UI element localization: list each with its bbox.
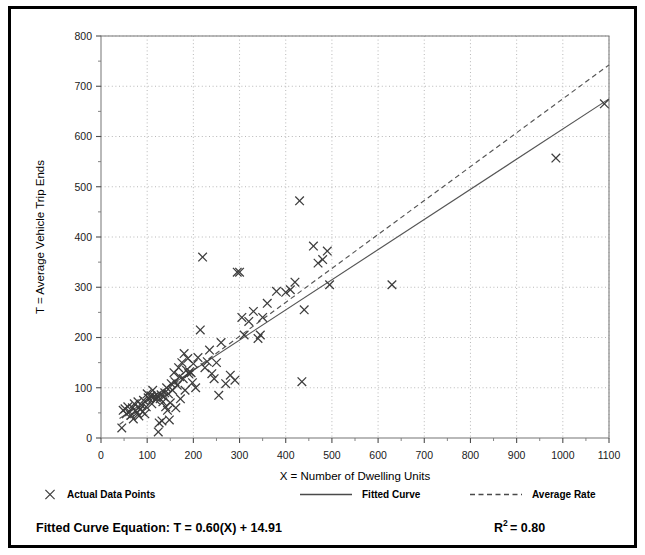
data-point-marker — [178, 358, 187, 367]
data-point-marker — [323, 247, 332, 256]
data-point-marker — [309, 242, 318, 251]
y-axis-tick-label: 700 — [74, 80, 92, 92]
data-point-marker — [194, 353, 203, 362]
y-axis-tick-label: 600 — [74, 130, 92, 142]
x-axis-tick-label: 800 — [462, 449, 480, 461]
data-point-marker — [176, 395, 185, 404]
legend-layer: Actual Data PointsFitted CurveAverage Ra… — [45, 489, 596, 500]
data-point-marker — [154, 428, 163, 437]
x-axis-title: X = Number of Dwelling Units — [280, 470, 431, 482]
y-axis-tick-label: 0 — [86, 432, 92, 444]
data-point-marker — [198, 253, 207, 262]
data-point-marker — [286, 285, 295, 294]
legend-label-actual-data-points: Actual Data Points — [67, 489, 156, 500]
footer-layer: Fitted Curve Equation: T = 0.60(X) + 14.… — [36, 518, 545, 535]
y-axis-tick-label: 500 — [74, 181, 92, 193]
data-point-marker — [263, 299, 272, 308]
x-axis-tick-label: 1000 — [551, 449, 575, 461]
data-point-marker — [174, 363, 183, 372]
data-point-marker — [214, 391, 223, 400]
data-point-marker — [172, 404, 181, 413]
axis-title-layer: X = Number of Dwelling UnitsT = Average … — [34, 160, 431, 482]
fitted-curve-equation: Fitted Curve Equation: T = 0.60(X) + 14.… — [36, 521, 282, 535]
data-point-marker — [217, 338, 226, 347]
x-axis-tick-label: 700 — [416, 449, 434, 461]
data-point-marker — [205, 346, 214, 355]
data-point-layer — [117, 100, 608, 437]
data-point-marker — [318, 255, 327, 264]
legend-item-actual-data-points: Actual Data Points — [45, 489, 155, 500]
data-point-marker — [196, 326, 205, 335]
x-axis-tick-label: 400 — [277, 449, 295, 461]
y-axis-tick-label: 400 — [74, 231, 92, 243]
data-point-marker — [181, 386, 190, 395]
data-point-marker — [188, 378, 197, 387]
y-axis-tick-label: 300 — [74, 281, 92, 293]
data-point-marker — [272, 287, 281, 296]
grid-layer — [101, 36, 609, 438]
x-axis-tick-label: 500 — [323, 449, 341, 461]
y-axis-tick-label: 100 — [74, 382, 92, 394]
x-axis-tick-label: 900 — [508, 449, 526, 461]
data-point-marker — [295, 197, 304, 206]
x-axis-tick-label: 0 — [98, 449, 104, 461]
data-point-marker — [300, 306, 309, 315]
data-point-marker — [180, 349, 189, 358]
r-squared-symbol: R — [494, 521, 503, 535]
data-point-marker — [165, 416, 174, 425]
data-point-marker — [221, 379, 230, 388]
r-squared-value: R2= 0.80 — [494, 518, 545, 535]
data-point-marker — [117, 424, 126, 433]
data-point-marker — [388, 280, 397, 289]
legend-item-fitted-curve: Fitted Curve — [300, 489, 421, 500]
x-axis-tick-label: 100 — [138, 449, 156, 461]
y-axis-tick-label: 800 — [74, 30, 92, 42]
data-point-marker — [231, 376, 240, 385]
r-squared-exponent: 2 — [503, 518, 508, 528]
data-point-marker — [298, 377, 307, 386]
legend-item-average-rate: Average Rate — [470, 489, 596, 500]
data-point-marker — [314, 259, 323, 268]
x-axis-tick-label: 300 — [231, 449, 249, 461]
x-axis-tick-label: 200 — [185, 449, 203, 461]
data-point-marker — [291, 278, 300, 287]
data-point-marker — [249, 307, 258, 316]
y-axis-tick-label: 200 — [74, 331, 92, 343]
legend-label-average-rate: Average Rate — [532, 489, 596, 500]
x-axis-tick-label: 600 — [369, 449, 387, 461]
scatter-plot-svg: 0100200300400500600700800010020030040050… — [0, 0, 645, 555]
data-point-marker — [212, 358, 221, 367]
chart-canvas: 0100200300400500600700800010020030040050… — [0, 0, 645, 555]
r-squared-number: = 0.80 — [510, 521, 545, 535]
y-axis-title: T = Average Vehicle Trip Ends — [34, 160, 46, 314]
data-point-marker — [163, 406, 172, 415]
figure-container: 0100200300400500600700800010020030040050… — [0, 0, 645, 555]
data-point-marker — [552, 154, 561, 163]
data-point-marker — [256, 331, 265, 340]
legend-label-fitted-curve: Fitted Curve — [362, 489, 421, 500]
x-axis-tick-label: 1100 — [598, 449, 621, 461]
